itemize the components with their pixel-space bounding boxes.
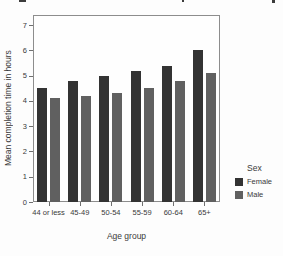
bar-male-44-or-less bbox=[50, 98, 60, 202]
x-tick-mark bbox=[111, 202, 112, 206]
legend-item-male: Male bbox=[235, 190, 281, 199]
bar-male-45-49 bbox=[81, 96, 91, 202]
x-category-label: 50-54 bbox=[94, 208, 128, 217]
x-tick-mark bbox=[142, 202, 143, 206]
cropped-text-fragment bbox=[182, 0, 184, 2]
y-tick-mark bbox=[29, 151, 33, 152]
y-tick-label: 6 bbox=[11, 46, 27, 55]
cropped-text-fragment bbox=[272, 0, 275, 3]
bar-female-55-59 bbox=[131, 71, 141, 202]
x-category-label: 55-59 bbox=[125, 208, 159, 217]
bar-male-55-59 bbox=[144, 88, 154, 202]
x-category-label: 60-64 bbox=[156, 208, 190, 217]
y-tick-mark bbox=[29, 101, 33, 102]
legend-title: Sex bbox=[247, 163, 281, 173]
x-category-label: 44 or less bbox=[32, 208, 66, 217]
y-tick-mark bbox=[29, 126, 33, 127]
bar-female-44-or-less bbox=[37, 88, 47, 202]
bar-male-65+ bbox=[206, 73, 216, 202]
y-tick-mark bbox=[29, 25, 33, 26]
bar-female-45-49 bbox=[68, 81, 78, 202]
y-tick-label: 4 bbox=[11, 96, 27, 105]
y-tick-mark bbox=[29, 76, 33, 77]
bar-male-50-54 bbox=[112, 93, 122, 202]
y-tick-label: 1 bbox=[11, 172, 27, 181]
x-tick-mark bbox=[49, 202, 50, 206]
x-tick-mark bbox=[80, 202, 81, 206]
x-category-label: 45-49 bbox=[63, 208, 97, 217]
y-tick-mark bbox=[29, 202, 33, 203]
legend-item-female: Female bbox=[235, 177, 281, 186]
y-tick-label: 7 bbox=[11, 21, 27, 30]
male-swatch-icon bbox=[235, 191, 243, 199]
y-tick-mark bbox=[29, 177, 33, 178]
y-tick-label: 3 bbox=[11, 122, 27, 131]
female-swatch-icon bbox=[235, 178, 243, 186]
x-tick-mark bbox=[204, 202, 205, 206]
bar-female-65+ bbox=[193, 50, 203, 202]
y-tick-mark bbox=[29, 50, 33, 51]
x-category-label: 65+ bbox=[187, 208, 221, 217]
x-tick-mark bbox=[173, 202, 174, 206]
bar-chart: Mean completion time in hours Age group … bbox=[0, 0, 283, 256]
y-tick-label: 5 bbox=[11, 71, 27, 80]
cropped-text-fragment bbox=[19, 0, 26, 2]
legend: Sex Female Male bbox=[235, 163, 281, 199]
y-tick-label: 2 bbox=[11, 147, 27, 156]
bar-female-60-64 bbox=[162, 66, 172, 202]
legend-label: Male bbox=[247, 190, 263, 199]
y-tick-label: 0 bbox=[11, 198, 27, 207]
bar-female-50-54 bbox=[99, 76, 109, 202]
bar-male-60-64 bbox=[175, 81, 185, 202]
x-axis-title: Age group bbox=[33, 231, 220, 241]
legend-label: Female bbox=[247, 177, 272, 186]
